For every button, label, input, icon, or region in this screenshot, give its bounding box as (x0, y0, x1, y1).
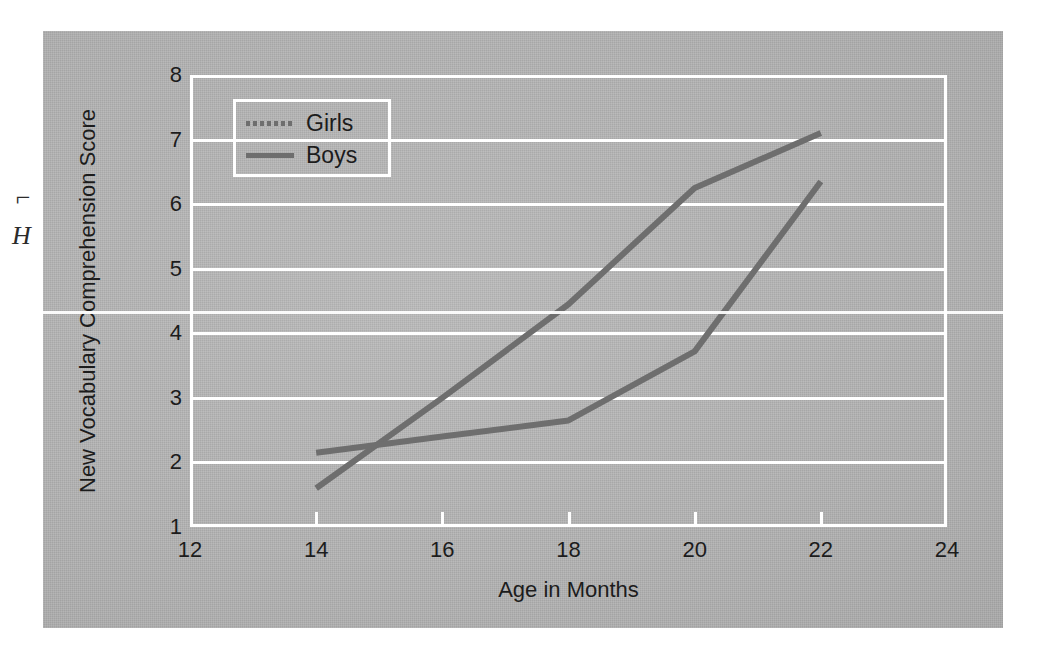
x-tick-label-12: 12 (160, 539, 220, 561)
legend-entry-girls: Girls (246, 107, 353, 139)
y-tick-label-2: 2 (152, 451, 182, 473)
chart-legend: Girls Boys (233, 99, 391, 177)
series-line-boys (316, 182, 821, 453)
y-axis-title: New Vocabulary Comprehension Score (75, 75, 105, 527)
legend-label-girls: Girls (306, 112, 353, 135)
figure-panel: 12345678 New Vocabulary Comprehension Sc… (43, 31, 1003, 628)
plot-area: Girls Boys (190, 75, 947, 527)
y-axis-tick-labels: 12345678 (140, 75, 182, 527)
x-axis-tick-labels: 12141618202224 (190, 539, 947, 569)
x-tick-label-24: 24 (917, 539, 977, 561)
page-margin-marks: ⌐ H (0, 185, 40, 305)
y-tick-label-8: 8 (152, 64, 182, 86)
margin-mark-bottom: H (12, 223, 31, 249)
x-tick-label-22: 22 (791, 539, 851, 561)
legend-swatch-boys-icon (246, 153, 294, 158)
x-tick-label-18: 18 (539, 539, 599, 561)
series-line-girls (316, 133, 821, 488)
y-tick-label-3: 3 (152, 387, 182, 409)
y-tick-label-1: 1 (152, 516, 182, 538)
legend-swatch-girls-icon (246, 121, 294, 126)
x-axis-title: Age in Months (190, 577, 947, 603)
y-tick-label-6: 6 (152, 193, 182, 215)
y-tick-label-4: 4 (152, 322, 182, 344)
y-tick-label-5: 5 (152, 258, 182, 280)
x-tick-label-20: 20 (665, 539, 725, 561)
x-tick-label-16: 16 (412, 539, 472, 561)
x-tick-label-14: 14 (286, 539, 346, 561)
legend-entry-boys: Boys (246, 139, 357, 171)
margin-mark-top: ⌐ (14, 185, 30, 211)
legend-label-boys: Boys (306, 144, 357, 167)
y-tick-label-7: 7 (152, 129, 182, 151)
line-chart: 12345678 New Vocabulary Comprehension Sc… (43, 31, 1003, 628)
